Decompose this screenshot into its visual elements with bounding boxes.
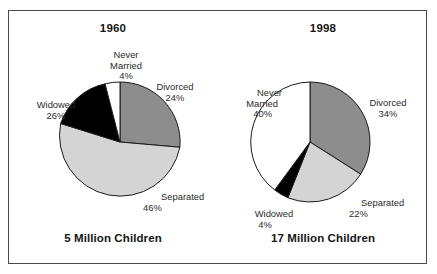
slice-label-divorced-1960: Divorced 24% <box>146 82 204 103</box>
slice-label-separated-1998-pct: 22% <box>349 209 423 220</box>
slice-label-never-married-1998-pct: 40% <box>218 109 272 120</box>
slice-label-never-married-1960: Never Married 4% <box>90 50 162 82</box>
slice-label-divorced-1960-name: Divorced <box>146 82 204 93</box>
slice-label-widowed-1960-name: Widowed <box>24 100 88 111</box>
slice-label-separated-1998: Separated 22% <box>361 198 423 219</box>
panel-1960: 1960 Never Married 4% Divorced 24% <box>8 10 218 264</box>
slice-label-widowed-1998-pct: 4% <box>247 220 283 231</box>
slice-label-divorced-1998-pct: 34% <box>359 109 417 120</box>
slice-label-widowed-1960: Widowed 26% <box>24 100 88 121</box>
slice-label-widowed-1998-name: Widowed <box>247 209 301 220</box>
slice-label-never-married-1998-line1: Never <box>218 88 282 99</box>
panel-caption-1960: 5 Million Children <box>8 232 218 244</box>
slice-label-widowed-1960-pct: 26% <box>24 111 88 122</box>
slice-label-divorced-1998: Divorced 34% <box>359 98 417 119</box>
slice-label-never-married-1960-pct: 4% <box>90 71 162 82</box>
slice-label-separated-1960: Separated 46% <box>161 192 219 213</box>
slice-label-never-married-1960-line1: Never <box>90 50 162 61</box>
slice-label-never-married-1998: Never Married 40% <box>218 88 278 120</box>
slice-label-separated-1960-name: Separated <box>161 192 219 203</box>
slice-label-widowed-1998: Widowed 4% <box>247 209 301 230</box>
panel-caption-1998: 17 Million Children <box>218 232 428 244</box>
panel-1998: 1998 Never Married 40% Divorced 34% <box>218 10 428 264</box>
slice-label-divorced-1998-name: Divorced <box>359 98 417 109</box>
slice-label-separated-1960-pct: 46% <box>143 203 219 214</box>
slice-label-divorced-1960-pct: 24% <box>146 93 204 104</box>
figure-canvas: 1960 Never Married 4% Divorced 24% <box>0 0 437 274</box>
slice-label-separated-1998-name: Separated <box>361 198 423 209</box>
